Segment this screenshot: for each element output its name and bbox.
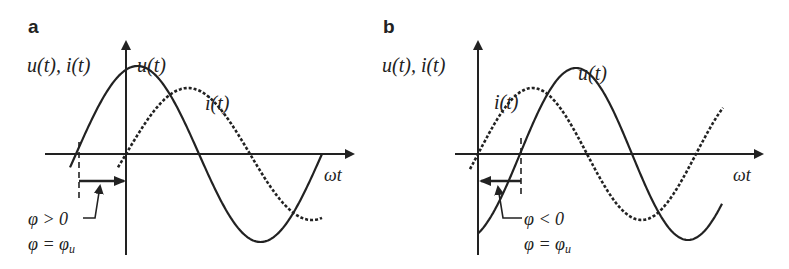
panel-letter-b: b xyxy=(383,16,395,37)
phase-leader-a xyxy=(83,186,100,218)
x-axis-label-b: ωt xyxy=(733,165,752,185)
phase-condition-b: φ < 0 xyxy=(524,209,564,229)
u-curve-label-a: u(t) xyxy=(137,54,166,77)
panel-a: a u(t), i(t) ωt u(t) i(t) φ > 0 φ = φu xyxy=(27,16,353,256)
phase-leader-b xyxy=(498,187,522,218)
panel-letter-a: a xyxy=(28,16,39,37)
phase-shift-diagram: a u(t), i(t) ωt u(t) i(t) φ > 0 φ = φu b… xyxy=(0,0,789,269)
y-axis-label-b: u(t), i(t) xyxy=(382,54,446,77)
x-axis-label-a: ωt xyxy=(324,165,343,185)
phase-relation-a: φ = φu xyxy=(28,234,75,256)
y-axis-label-a: u(t), i(t) xyxy=(27,54,91,77)
i-curve-label-a: i(t) xyxy=(205,92,230,115)
i-curve-label-b: i(t) xyxy=(494,91,519,114)
phase-condition-a: φ > 0 xyxy=(28,209,68,229)
panel-b: b u(t), i(t) ωt u(t) i(t) φ < 0 φ = φu xyxy=(382,16,762,256)
u-curve-label-b: u(t) xyxy=(578,62,607,85)
phase-relation-b: φ = φu xyxy=(524,234,571,256)
